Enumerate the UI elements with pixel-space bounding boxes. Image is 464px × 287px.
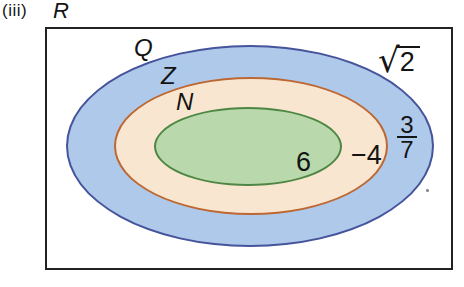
element-6: 6 (296, 149, 311, 176)
fraction-denominator: 7 (397, 138, 417, 160)
fraction-numerator: 3 (397, 114, 417, 138)
set-label-Q: Q (134, 36, 153, 60)
set-label-Z: Z (161, 64, 176, 88)
set-label-N: N (176, 90, 193, 114)
set-ellipse-N (154, 107, 342, 186)
radicand-value: 2 (396, 46, 420, 76)
element-sqrt-2: √ 2 (378, 43, 420, 77)
stray-print-dot (426, 189, 429, 192)
set-diagram-figure: (iii) R Q Z N √ 2 3 7 −4 6 (0, 0, 464, 287)
element-negative-4: −4 (351, 142, 382, 169)
item-number-label: (iii) (2, 2, 27, 19)
set-label-R: R (53, 0, 69, 22)
element-fraction-3-7: 3 7 (397, 114, 417, 160)
